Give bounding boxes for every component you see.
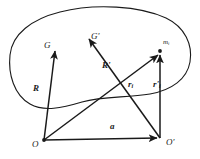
point-label-O-prime: O' <box>166 138 174 147</box>
vector-label-R: R <box>33 84 39 93</box>
vector-a-line <box>44 138 157 140</box>
point-label-G-prime: G' <box>91 32 99 41</box>
vector-label-R-prime: R' <box>102 61 111 70</box>
vector-label-r-i-prime: r'i <box>153 80 161 89</box>
r-i-subscript: i <box>132 83 134 89</box>
rigid-body-blob-outline <box>10 7 191 109</box>
vector-R-prime-line <box>89 39 160 138</box>
point-O-marker <box>42 138 46 142</box>
point-label-m-i: mi <box>163 39 169 47</box>
vector-label-r-i: ri <box>128 80 133 89</box>
m-i-subscript: i <box>168 41 169 46</box>
r-i-prime-subscript: i <box>159 83 161 89</box>
rigid-body-vector-diagram: G G' mi O O' R R' ri r'i a <box>0 0 200 159</box>
point-label-G: G <box>44 41 51 50</box>
vector-R-line <box>44 51 55 140</box>
point-label-O: O <box>32 140 39 149</box>
vector-label-a: a <box>110 122 115 131</box>
point-m-i-marker <box>158 49 162 53</box>
vector-r-i-line <box>44 55 158 140</box>
diagram-canvas <box>0 0 200 159</box>
